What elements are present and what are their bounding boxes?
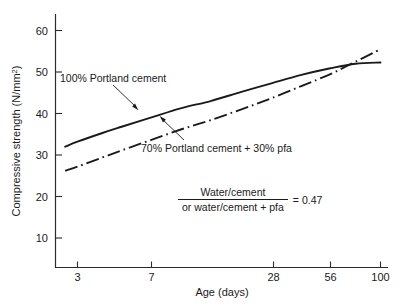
- x-tick-label-28: 28: [267, 271, 279, 283]
- x-axis-title: Age (days): [195, 286, 248, 298]
- fraction-denominator: or water/cement + pfa: [178, 200, 288, 213]
- x-tick-label-3: 3: [74, 271, 80, 283]
- x-axis-ticks: [78, 262, 381, 268]
- annotation-label-portland-cement: 100% Portland cement: [60, 72, 166, 84]
- chart-figure: 60 50 40 30 20 10 3 7 28 56 100 Age (day…: [0, 0, 400, 304]
- x-tick-label-100: 100: [371, 271, 389, 283]
- y-tick-label-40: 40: [36, 108, 48, 120]
- fraction-value: = 0.47: [293, 194, 323, 206]
- fraction-numerator: Water/cement: [196, 186, 269, 199]
- x-tick-label-7: 7: [148, 271, 154, 283]
- y-tick-label-30: 30: [36, 149, 48, 161]
- annotation-leader-portland: [113, 85, 138, 110]
- y-tick-label-10: 10: [36, 232, 48, 244]
- water-cement-ratio-note: Water/cement or water/cement + pfa = 0.4…: [178, 186, 322, 213]
- water-cement-fraction: Water/cement or water/cement + pfa: [178, 186, 288, 213]
- annotation-leader-pfa: [160, 116, 184, 140]
- x-axis-tick-labels: 3 7 28 56 100: [74, 271, 389, 283]
- x-tick-label-56: 56: [324, 271, 336, 283]
- y-axis-tick-labels: 60 50 40 30 20 10: [36, 25, 48, 245]
- annotation-label-pfa-blend: 70% Portland cement + 30% pfa: [141, 142, 292, 154]
- chart-plot-area: 60 50 40 30 20 10 3 7 28 56 100 Age (day…: [0, 0, 400, 304]
- y-tick-label-50: 50: [36, 66, 48, 78]
- y-tick-label-60: 60: [36, 25, 48, 37]
- y-axis-ticks: [56, 31, 63, 239]
- y-axis-title: Compressive strength (N/mm2): [10, 66, 23, 217]
- y-axis-title-text: Compressive strength (N/mm: [10, 73, 22, 216]
- y-tick-label-20: 20: [36, 191, 48, 203]
